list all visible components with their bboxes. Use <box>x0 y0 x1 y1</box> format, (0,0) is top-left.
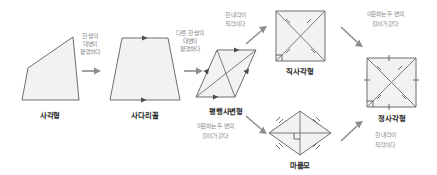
arrow-rect-to-square-icon <box>341 27 363 47</box>
transition-trapezoid-to-parallelogram: 다른 한 쌍의 대변이 평행하다 <box>176 29 203 75</box>
rhombus-side-tick-3b <box>276 145 280 149</box>
arrow-quad-to-trapezoid-icon <box>82 68 101 75</box>
arrow-para-to-rhom-icon <box>246 116 267 134</box>
trapezoid-outline <box>110 38 180 100</box>
annot-para-to-rhom-line2: 길이가 같다 <box>202 132 229 140</box>
quadrilateral-hierarchy-diagram: 사각형 한 쌍의 대변이 평행하다 사다리꼴 다른 한 쌍의 대변이 평행하다 <box>0 0 437 175</box>
rhombus-side-tick-4a <box>279 119 283 123</box>
shape-trapezoid: 사다리꼴 <box>110 36 180 121</box>
arrow-para-to-rect-icon <box>246 26 267 44</box>
annot-quad-to-trapezoid-line1: 한 쌍의 <box>82 32 98 40</box>
caption-rectangle: 직사각형 <box>286 67 314 76</box>
caption-square: 정사각형 <box>378 114 406 123</box>
rhombus-side-tick-3a <box>279 143 283 147</box>
annot-quad-to-trapezoid-line3: 평행하다 <box>80 48 101 56</box>
shape-parallelogram: 평행사변형 <box>196 48 256 117</box>
annot-para-to-rect-line1: 한 내각이 <box>225 11 246 19</box>
annot-para-to-rect-line2: 직각이다 <box>225 20 246 28</box>
annot-quad-to-trapezoid-line2: 대변이 <box>83 40 98 48</box>
transition-parallelogram-to-rectangle: 한 내각이 직각이다 <box>225 11 267 44</box>
shape-quadrilateral: 사각형 <box>22 37 79 120</box>
caption-trapezoid: 사다리꼴 <box>131 111 159 120</box>
annot-rhom-to-sq-line2: 직각이다 <box>375 141 396 149</box>
shape-rectangle: 직사각형 <box>276 11 325 76</box>
caption-quadrilateral: 사각형 <box>40 111 61 120</box>
arrow-trap-to-para-icon <box>184 68 203 75</box>
annot-trap-to-para-line2: 대변이 <box>183 37 198 45</box>
shape-rhombus: 마름모 <box>269 111 331 170</box>
rhombus-side-tick-4b <box>276 117 280 121</box>
arrow-rhombus-to-square-icon <box>341 121 363 141</box>
annot-trap-to-para-line3: 평행하다 <box>180 45 201 53</box>
transition-parallelogram-to-rhombus: 이웃하는 두 변의 길이가 같다 <box>197 116 267 140</box>
annot-rhom-to-sq-line1: 한 내각이 <box>375 131 396 139</box>
rhombus-side-tick-2b <box>316 145 320 149</box>
quadrilateral-outline <box>22 37 79 100</box>
annot-rect-to-sq-line1: 이웃하는 두 변의 <box>367 10 404 18</box>
transition-rhombus-to-square: 한 내각이 직각이다 <box>341 121 396 149</box>
transition-quad-to-trapezoid: 한 쌍의 대변이 평행하다 <box>80 32 101 75</box>
transition-rectangle-to-square: 이웃하는 두 변의 길이가 같다 <box>341 10 404 47</box>
caption-parallelogram: 평행사변형 <box>209 107 244 116</box>
annot-trap-to-para-line1: 다른 한 쌍의 <box>176 29 203 37</box>
caption-rhombus: 마름모 <box>290 161 311 170</box>
annot-para-to-rhom-line1: 이웃하는 두 변의 <box>197 122 234 130</box>
annot-rect-to-sq-line2: 길이가 같다 <box>372 20 399 28</box>
rhombus-side-tick-1b <box>316 117 320 121</box>
shape-square: 정사각형 <box>364 55 419 123</box>
